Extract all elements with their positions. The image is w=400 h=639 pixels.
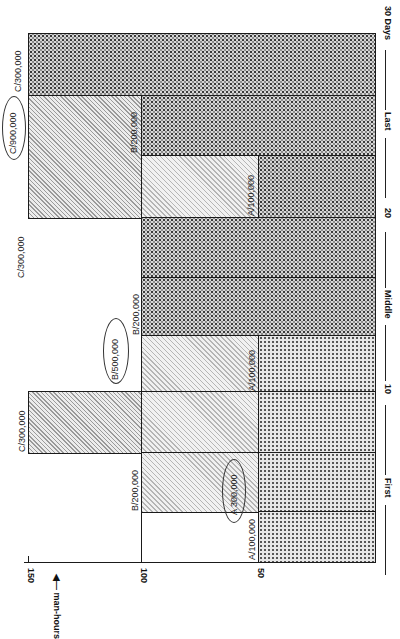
label-a300: A 300,000 bbox=[229, 474, 239, 515]
label-c300-first: C/300,000 bbox=[17, 410, 27, 452]
label-b200-first: B/200,000 bbox=[130, 470, 140, 511]
days-arrow-middle bbox=[385, 232, 386, 288]
tick-label-50: 50 bbox=[256, 568, 266, 578]
ylabel-man-hours: ◀— man-hours bbox=[52, 574, 62, 639]
tick-150 bbox=[28, 556, 29, 563]
label-c300-mid: C/300,000 bbox=[16, 236, 26, 278]
bar-c-last-top bbox=[28, 33, 376, 96]
label-c300-last: C/300,000 bbox=[13, 50, 23, 92]
bar-a-middle-hatch bbox=[141, 335, 259, 393]
days-arrow-last bbox=[385, 50, 386, 110]
days-arrow-last-2 bbox=[385, 138, 386, 198]
y-axis-line bbox=[24, 562, 376, 563]
gridline-100 bbox=[141, 511, 142, 563]
days-arrow-middle-2 bbox=[385, 325, 386, 381]
tick-label-10: 10 bbox=[383, 384, 393, 394]
days-arrow-first bbox=[385, 405, 386, 475]
label-b200-last: B/200,000 bbox=[129, 112, 139, 153]
label-b200-middle: B/200,000 bbox=[131, 294, 141, 335]
tick-label-100: 100 bbox=[139, 568, 149, 583]
label-a100-first: A/100,000 bbox=[247, 519, 257, 560]
tick-label-20: 20 bbox=[383, 208, 393, 218]
label-a100-last: A/100,000 bbox=[246, 175, 256, 216]
bar-b-last bbox=[141, 95, 376, 157]
bar-c-last-hatch bbox=[28, 95, 142, 219]
bar-a-first-1 bbox=[258, 391, 376, 454]
tick-label-30-days: 30 Days bbox=[383, 6, 393, 40]
days-arrow-first-2 bbox=[385, 505, 386, 575]
bar-c-first bbox=[28, 391, 142, 454]
phase-first: First bbox=[383, 478, 393, 498]
label-b500: B/500,000 bbox=[110, 339, 120, 380]
phase-last: Last bbox=[383, 112, 393, 131]
bar-a-first-3 bbox=[258, 511, 376, 563]
arrow-left-icon: ◀— bbox=[52, 574, 62, 593]
bar-b-first bbox=[141, 391, 259, 454]
bar-a-last bbox=[258, 155, 376, 219]
phase-middle: Middle bbox=[383, 290, 393, 319]
tick-label-150: 150 bbox=[26, 568, 36, 583]
label-c900: C/900,000 bbox=[8, 112, 18, 154]
bar-a-first-2 bbox=[258, 452, 376, 513]
bar-a-last-hatch bbox=[141, 155, 259, 219]
bar-b-middle-1 bbox=[141, 217, 376, 279]
label-a100-middle: A/100,000 bbox=[247, 350, 257, 391]
bar-b-middle-2 bbox=[141, 277, 376, 337]
bar-a-middle bbox=[258, 335, 376, 393]
